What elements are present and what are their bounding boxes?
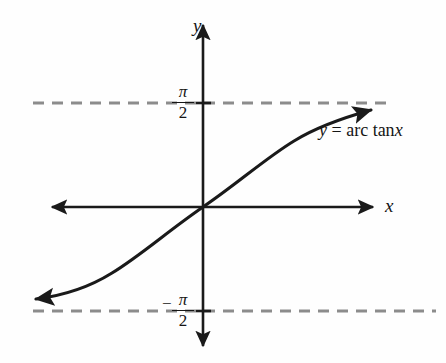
equation-label: y = arc tanx — [319, 121, 403, 139]
asymptote-lower-sign: − — [162, 294, 172, 314]
equation-argument: x — [395, 120, 403, 140]
y-axis-label: y — [193, 16, 201, 35]
x-axis-label: x — [385, 196, 393, 215]
asymptote-lower-numerator: π — [172, 291, 194, 309]
asymptote-upper-denominator: 2 — [172, 103, 194, 123]
graph-canvas — [0, 0, 446, 363]
asymptote-lower-denominator: 2 — [172, 311, 194, 331]
asymptote-upper-numerator: π — [172, 83, 194, 101]
asymptote-upper-label: π 2 — [172, 83, 194, 123]
equation-equals: = — [327, 120, 346, 140]
arctan-graph-figure: y x y = arc tanx π 2 − π 2 — [0, 0, 446, 363]
equation-function: arc tan — [346, 120, 394, 140]
asymptote-lower-label: − π 2 — [172, 291, 194, 331]
equation-lhs: y — [319, 120, 327, 140]
